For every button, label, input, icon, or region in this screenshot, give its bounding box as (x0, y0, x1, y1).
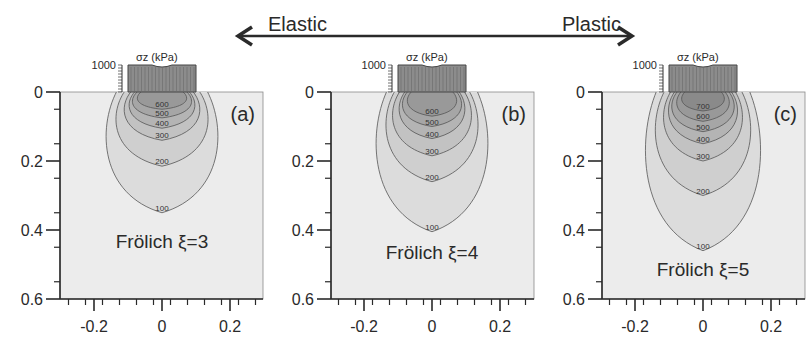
frolich-annotation: Frölich ξ=3 (116, 231, 208, 252)
contour-label: 100 (155, 204, 169, 213)
surface-load: 1000σz (kPa) (362, 51, 466, 92)
load-scale-label: 1000 (633, 59, 657, 71)
contour-panel-c: 1002003004005006007001000σz (kPa)00.20.4… (563, 51, 805, 335)
contour-label: 400 (425, 130, 439, 139)
panel-label: (b) (502, 103, 526, 125)
x-tick-label: 0.2 (219, 318, 241, 335)
y-tick-label: 0 (576, 84, 585, 101)
contour-label: 300 (696, 152, 710, 161)
x-tick-label: -0.2 (621, 318, 649, 335)
frolich-annotation: Frölich ξ=4 (386, 242, 479, 263)
x-tick-label: 0 (158, 318, 167, 335)
y-tick-label: 0.4 (563, 222, 585, 239)
y-tick-label: 0 (305, 84, 314, 101)
y-tick-label: 0.2 (563, 153, 585, 170)
load-unit-label: σz (kPa) (677, 51, 719, 63)
x-tick-label: 0 (699, 318, 708, 335)
contour-label: 100 (425, 223, 439, 232)
contour-label: 600 (696, 112, 710, 121)
y-tick-label: 0.6 (563, 291, 585, 308)
load-scale-label: 1000 (92, 59, 116, 71)
contour-label: 600 (155, 100, 169, 109)
contour-label: 200 (696, 187, 710, 196)
contour-label: 300 (155, 131, 169, 140)
contour-label: 100 (696, 242, 710, 251)
panels: 1002003004005006001000σz (kPa)00.20.40.6… (21, 51, 805, 335)
frolich-annotation: Frölich ξ=5 (657, 259, 749, 280)
contour-panel-b: 1002003004005006001000σz (kPa)00.20.40.6… (292, 51, 534, 335)
x-tick-label: 0.2 (489, 318, 511, 335)
contour-panel-a: 1002003004005006001000σz (kPa)00.20.40.6… (21, 51, 263, 335)
contour-label: 500 (696, 123, 710, 132)
surface-load: 1000σz (kPa) (92, 51, 196, 92)
contour-label: 200 (155, 157, 169, 166)
contour-label: 400 (155, 119, 169, 128)
y-tick-label: 0.6 (21, 291, 43, 308)
contour-label: 400 (696, 135, 710, 144)
y-tick-label: 0.4 (21, 222, 43, 239)
y-tick-label: 0.2 (21, 153, 43, 170)
y-tick-label: 0.2 (292, 153, 314, 170)
elastic-label: Elastic (268, 13, 327, 35)
y-tick-label: 0 (34, 84, 43, 101)
contour-label: 600 (425, 107, 439, 116)
load-scale-label: 1000 (362, 59, 386, 71)
figure: ElasticPlastic 1002003004005006001000σz … (0, 0, 812, 345)
x-tick-label: 0 (428, 318, 437, 335)
contour-label: 500 (425, 118, 439, 127)
contour-label: 200 (425, 173, 439, 182)
panel-label: (a) (231, 103, 255, 125)
elastic-plastic-arrow: ElasticPlastic (238, 13, 632, 45)
y-tick-label: 0.4 (292, 222, 314, 239)
panel-label: (c) (774, 103, 797, 125)
contour-label: 700 (696, 102, 710, 111)
load-unit-label: σz (kPa) (406, 51, 448, 63)
x-tick-label: 0.2 (760, 318, 782, 335)
contour-label: 300 (425, 147, 439, 156)
x-tick-label: -0.2 (350, 318, 378, 335)
x-tick-label: -0.2 (80, 318, 108, 335)
surface-load: 1000σz (kPa) (633, 51, 737, 92)
contour-label: 500 (155, 109, 169, 118)
plastic-label: Plastic (562, 13, 621, 35)
y-tick-label: 0.6 (292, 291, 314, 308)
load-unit-label: σz (kPa) (136, 51, 178, 63)
